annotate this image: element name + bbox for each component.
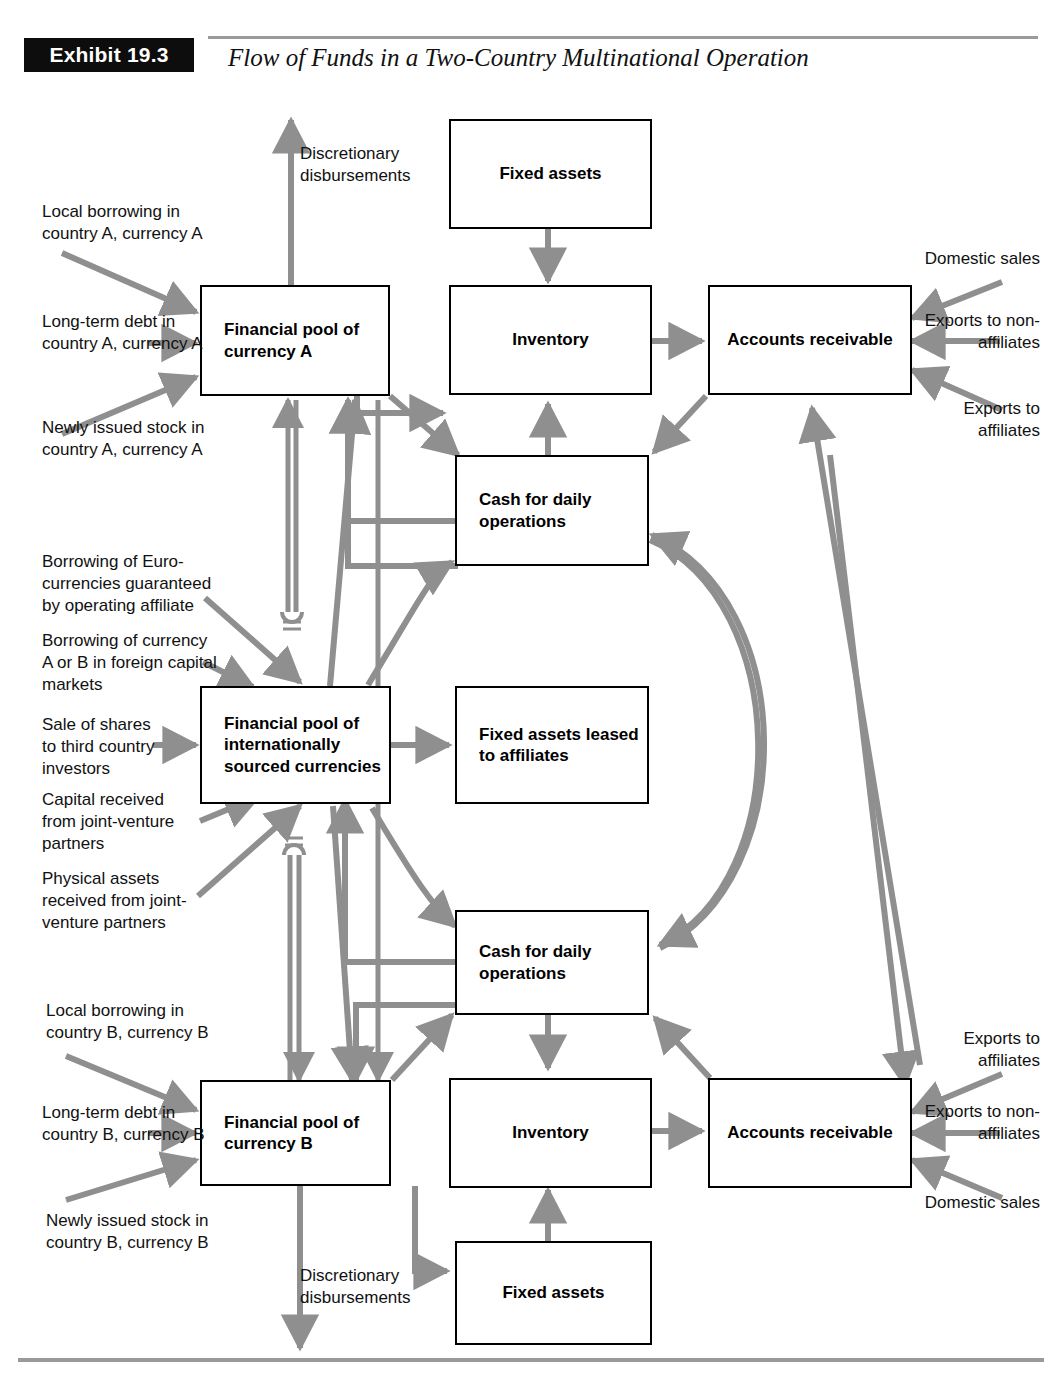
label-euro-borrowing: Borrowing of Euro-currencies guaranteed … bbox=[42, 551, 232, 616]
arrow-intl-to-poolA bbox=[330, 400, 355, 686]
label-domestic-sales-bottom: Domestic sales bbox=[900, 1192, 1040, 1214]
node-pool-a[interactable]: Financial pool of currency A bbox=[200, 285, 390, 396]
label-newly-issued-stock-a: Newly issued stock in country A, currenc… bbox=[42, 417, 222, 461]
arrow-cash-to-poolA-2 bbox=[348, 400, 455, 521]
node-inventory-top[interactable]: Inventory bbox=[449, 285, 652, 395]
label-exports-nonaffiliates-bottom: Exports to non-affiliates bbox=[900, 1101, 1040, 1145]
label-capital-jv: Capital received from joint-venture part… bbox=[42, 789, 202, 854]
label-exports-nonaffiliates-top: Exports to non-affiliates bbox=[900, 310, 1040, 354]
label-long-term-debt-a: Long-term debt in country A, currency A bbox=[42, 311, 207, 355]
label-physical-assets-jv: Physical assets received from joint-vent… bbox=[42, 868, 212, 933]
arrow-poolB-to-cash-bottom bbox=[392, 1015, 452, 1080]
label-discretionary-top: Discretionary disbursements bbox=[300, 143, 430, 187]
node-accounts-receivable-top-label: Accounts receivable bbox=[710, 329, 910, 350]
arrow-local-borrowing-a bbox=[62, 253, 196, 312]
node-pool-intl-label: Financial pool of internationally source… bbox=[224, 713, 389, 777]
node-pool-a-label: Financial pool of currency A bbox=[224, 319, 388, 362]
node-fixed-assets-leased[interactable]: Fixed assets leased to affiliates bbox=[455, 686, 649, 804]
node-fixed-assets-bottom[interactable]: Fixed assets bbox=[455, 1241, 652, 1345]
label-local-borrowing-a: Local borrowing in country A, currency A bbox=[42, 201, 207, 245]
node-fixed-assets-top-label: Fixed assets bbox=[451, 163, 650, 184]
node-inventory-top-label: Inventory bbox=[451, 329, 650, 350]
label-exports-affiliates-top: Exports to affiliates bbox=[900, 398, 1040, 442]
footer-rule bbox=[18, 1358, 1044, 1362]
node-cash-bottom[interactable]: Cash for daily operations bbox=[455, 910, 649, 1015]
label-local-borrowing-b: Local borrowing in country B, currency B bbox=[46, 1000, 211, 1044]
arc-cash-top-to-cash-bottom bbox=[650, 540, 758, 945]
node-cash-top-label: Cash for daily operations bbox=[479, 489, 647, 532]
arrow-cashbottom-to-intl bbox=[345, 800, 455, 962]
label-domestic-sales-top: Domestic sales bbox=[900, 248, 1040, 270]
node-inventory-bottom-label: Inventory bbox=[451, 1122, 650, 1143]
label-sale-of-shares: Sale of shares to third country investor… bbox=[42, 714, 162, 779]
node-cash-top[interactable]: Cash for daily operations bbox=[455, 455, 649, 566]
arrow-intl-to-cash-bottom bbox=[372, 808, 455, 926]
node-inventory-bottom[interactable]: Inventory bbox=[449, 1078, 652, 1188]
node-pool-intl[interactable]: Financial pool of internationally source… bbox=[200, 686, 391, 804]
node-cash-bottom-label: Cash for daily operations bbox=[479, 941, 647, 984]
node-fixed-assets-top[interactable]: Fixed assets bbox=[449, 119, 652, 229]
exhibit-page: Exhibit 19.3 Flow of Funds in a Two-Coun… bbox=[0, 0, 1062, 1384]
arrow-poolB-to-fixed-assets bbox=[415, 1186, 447, 1271]
label-long-term-debt-b: Long-term debt in country B, currency B bbox=[42, 1102, 207, 1146]
arc-cash-bottom-to-cash-top bbox=[652, 535, 764, 948]
label-exports-affiliates-bottom: Exports to affiliates bbox=[900, 1028, 1040, 1072]
label-newly-issued-stock-b: Newly issued stock in country B, currenc… bbox=[46, 1210, 226, 1254]
node-fixed-assets-leased-label: Fixed assets leased to affiliates bbox=[479, 724, 647, 767]
node-pool-b[interactable]: Financial pool of currency B bbox=[200, 1080, 391, 1186]
node-pool-b-label: Financial pool of currency B bbox=[224, 1112, 389, 1155]
node-accounts-receivable-bottom[interactable]: Accounts receivable bbox=[708, 1078, 912, 1188]
node-accounts-receivable-top[interactable]: Accounts receivable bbox=[708, 285, 912, 395]
arrow-cash-to-poolA bbox=[348, 400, 458, 566]
arrow-poolA-to-cash-top bbox=[390, 396, 458, 455]
arrow-newly-issued-b bbox=[66, 1160, 196, 1200]
node-fixed-assets-bottom-label: Fixed assets bbox=[457, 1282, 650, 1303]
arrow-ar-top-to-ar-bottom bbox=[830, 455, 905, 1085]
arrow-ar-to-cash-bottom bbox=[655, 1018, 710, 1078]
node-accounts-receivable-bottom-label: Accounts receivable bbox=[710, 1122, 910, 1143]
label-discretionary-bottom: Discretionary disbursements bbox=[300, 1265, 435, 1309]
label-foreign-capital-markets: Borrowing of currency A or B in foreign … bbox=[42, 630, 218, 695]
arrow-ar-to-cash-top bbox=[654, 396, 706, 452]
flow-of-funds-diagram: Financial pool of currency A Fixed asset… bbox=[0, 0, 1062, 1384]
